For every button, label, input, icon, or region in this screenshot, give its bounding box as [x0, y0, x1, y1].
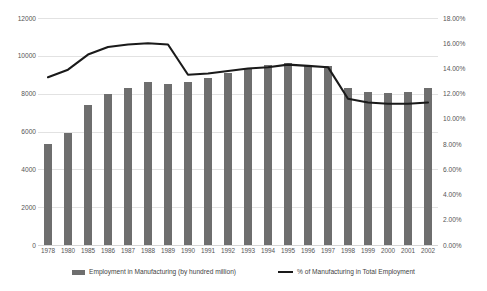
bar-slot — [38, 18, 58, 245]
bar — [344, 88, 352, 245]
x-axis-tick-label: 1991 — [201, 247, 215, 255]
x-axis-tick-label: 1996 — [301, 247, 315, 255]
right-axis-tick-label: 6.00% — [443, 166, 462, 173]
x-axis-tick-label: 2000 — [381, 247, 395, 255]
x-axis-tick-label: 1992 — [221, 247, 235, 255]
right-axis-tick-label: 4.00% — [443, 191, 462, 198]
x-axis-tick-label: 1988 — [141, 247, 155, 255]
x-axis-tick-label: 2001 — [401, 247, 415, 255]
bar — [164, 84, 172, 245]
left-axis-tick-label: 10000 — [18, 52, 36, 59]
bar-slot — [138, 18, 158, 245]
legend-label-employment: Employment in Manufacturing (by hundred … — [89, 268, 236, 276]
x-axis-tick-label: 1994 — [261, 247, 275, 255]
right-axis-tick-label: 16.00% — [443, 40, 465, 47]
right-axis-tick-label: 0.00% — [443, 242, 462, 249]
bar — [224, 73, 232, 245]
bar-slot — [98, 18, 118, 245]
bar-series-employment-in-manufacturing — [38, 18, 438, 245]
legend-label-percent: % of Manufacturing in Total Employment — [297, 268, 415, 276]
x-axis-tick-label: 1989 — [161, 247, 175, 255]
x-axis-tick-label: 1987 — [121, 247, 135, 255]
right-axis-tick-label: 8.00% — [443, 141, 462, 148]
x-axis-tick-label: 1993 — [241, 247, 255, 255]
right-axis-tick-label: 12.00% — [443, 90, 465, 97]
bar-slot — [378, 18, 398, 245]
x-axis-tick-label: 1998 — [341, 247, 355, 255]
left-axis-tick-label: 2000 — [21, 204, 36, 211]
bar-slot — [418, 18, 438, 245]
bar — [124, 88, 132, 245]
bar-slot — [298, 18, 318, 245]
right-axis-tick-label: 10.00% — [443, 115, 465, 122]
bar-slot — [78, 18, 98, 245]
bar — [384, 93, 392, 245]
bar — [204, 78, 212, 245]
bar-slot — [218, 18, 238, 245]
bar — [84, 105, 92, 245]
bar — [244, 69, 252, 245]
bar-slot — [58, 18, 78, 245]
bar — [404, 92, 412, 245]
bar-slot — [258, 18, 278, 245]
bar-slot — [238, 18, 258, 245]
left-axis-tick-label: 8000 — [21, 90, 36, 97]
bar — [64, 133, 72, 245]
bar — [44, 144, 52, 245]
legend-item-employment: Employment in Manufacturing (by hundred … — [72, 268, 236, 276]
bar — [424, 88, 432, 245]
bar-slot — [338, 18, 358, 245]
bar — [184, 82, 192, 245]
bar — [104, 94, 112, 245]
bar — [304, 65, 312, 245]
bar-slot — [398, 18, 418, 245]
bar — [284, 63, 292, 245]
x-axis-tick-label: 1980 — [61, 247, 75, 255]
x-axis-tick-label: 1985 — [81, 247, 95, 255]
bar-swatch-icon — [72, 270, 85, 275]
right-axis-tick-label: 14.00% — [443, 65, 465, 72]
x-axis-tick-label: 1986 — [101, 247, 115, 255]
x-axis-tick-label: 1978 — [41, 247, 55, 255]
bar-slot — [358, 18, 378, 245]
x-axis-tick-label: 1995 — [281, 247, 295, 255]
x-axis-tick-label: 1997 — [321, 247, 335, 255]
x-axis-category-labels: 1978198019851986198719881989199019911992… — [38, 245, 438, 259]
line-swatch-icon — [278, 271, 293, 273]
bar-slot — [158, 18, 178, 245]
right-axis-tick-label: 18.00% — [443, 15, 465, 22]
bar-slot — [278, 18, 298, 245]
bar — [264, 65, 272, 245]
bar-slot — [118, 18, 138, 245]
bar-slot — [198, 18, 218, 245]
chart-legend: Employment in Manufacturing (by hundred … — [0, 268, 487, 276]
right-axis-tick-label: 2.00% — [443, 216, 462, 223]
bar — [364, 92, 372, 245]
left-axis-tick-label: 6000 — [21, 128, 36, 135]
x-axis-tick-label: 2002 — [421, 247, 435, 255]
bar-slot — [318, 18, 338, 245]
legend-item-percent: % of Manufacturing in Total Employment — [278, 268, 415, 276]
x-axis-tick-label: 1999 — [361, 247, 375, 255]
left-axis-tick-label: 4000 — [21, 166, 36, 173]
bar-slot — [178, 18, 198, 245]
left-axis-tick-label: 0 — [32, 242, 36, 249]
chart-container: 020004000600080001000012000 0.00%2.00%4.… — [0, 0, 487, 291]
bar — [324, 66, 332, 245]
left-axis-tick-label: 12000 — [18, 15, 36, 22]
bar — [144, 82, 152, 245]
x-axis-tick-label: 1990 — [181, 247, 195, 255]
